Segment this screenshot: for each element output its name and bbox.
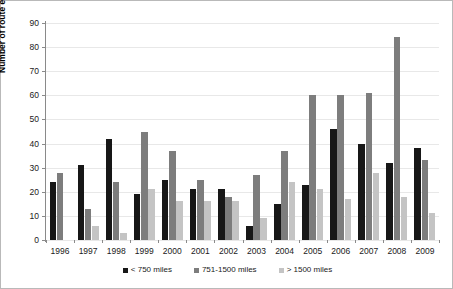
legend-item[interactable]: > 1500 miles xyxy=(279,266,333,274)
x-axis-tick-mark xyxy=(355,240,356,243)
x-axis-tick-mark xyxy=(411,240,412,243)
bar xyxy=(162,180,169,240)
bar xyxy=(358,144,365,240)
bar xyxy=(50,182,57,240)
bar xyxy=(190,189,197,240)
bar xyxy=(274,204,281,240)
y-axis-tick-label: 0 xyxy=(1,236,39,245)
x-axis-tick-label: 2006 xyxy=(327,247,355,256)
legend-label: > 1500 miles xyxy=(287,266,333,274)
bar xyxy=(345,199,352,240)
x-axis-tick-mark xyxy=(383,240,384,243)
bar xyxy=(197,180,204,240)
bar xyxy=(176,201,183,240)
y-axis-tick-label: 20 xyxy=(1,188,39,197)
bar xyxy=(148,189,155,240)
bar xyxy=(141,132,148,241)
bar xyxy=(309,95,316,240)
bar xyxy=(120,233,127,240)
x-axis-tick-mark xyxy=(102,240,103,243)
bar xyxy=(373,173,380,241)
y-axis-tick-mark xyxy=(42,144,45,145)
x-axis-tick-mark xyxy=(439,240,440,243)
y-axis-title: Number of route entries xyxy=(0,0,7,73)
x-axis-tick-mark xyxy=(186,240,187,243)
y-axis-tick-mark xyxy=(42,240,45,241)
y-axis-tick-mark xyxy=(42,168,45,169)
y-axis-tick-label: 70 xyxy=(1,67,39,76)
bar xyxy=(57,173,64,241)
legend-label: 751-1500 miles xyxy=(202,266,257,274)
bar xyxy=(260,218,267,240)
x-axis-tick-label: 2005 xyxy=(299,247,327,256)
y-axis-tick-label: 90 xyxy=(1,19,39,28)
bar xyxy=(394,37,401,240)
bar xyxy=(429,213,436,240)
y-axis-tick-mark xyxy=(42,71,45,72)
bar xyxy=(225,197,232,240)
y-axis-tick-label: 40 xyxy=(1,140,39,149)
x-axis-tick-label: 2000 xyxy=(158,247,186,256)
x-axis-tick-mark xyxy=(214,240,215,243)
bar xyxy=(401,197,408,240)
bar xyxy=(330,129,337,240)
bar xyxy=(281,151,288,240)
x-axis-tick-label: 2004 xyxy=(271,247,299,256)
chart-legend: < 750 miles751-1500 miles> 1500 miles xyxy=(1,266,453,274)
bar xyxy=(232,201,239,240)
legend-item[interactable]: < 750 miles xyxy=(123,266,172,274)
y-axis-tick-mark xyxy=(42,95,45,96)
x-axis-tick-mark xyxy=(158,240,159,243)
legend-label: < 750 miles xyxy=(131,266,172,274)
x-axis-tick-label: 2009 xyxy=(411,247,439,256)
x-axis-tick-label: 1997 xyxy=(74,247,102,256)
y-axis-tick-label: 60 xyxy=(1,91,39,100)
y-axis-tick-label: 30 xyxy=(1,164,39,173)
x-axis-tick-mark xyxy=(46,240,47,243)
y-axis-tick-mark xyxy=(42,23,45,24)
x-axis-tick-mark xyxy=(243,240,244,243)
bar xyxy=(169,151,176,240)
bar xyxy=(92,226,99,240)
bar xyxy=(386,163,393,240)
x-axis-tick-label: 2001 xyxy=(186,247,214,256)
x-axis-tick-mark xyxy=(271,240,272,243)
bar xyxy=(134,194,141,240)
x-axis-tick-label: 2003 xyxy=(243,247,271,256)
x-axis-tick-label: 1998 xyxy=(102,247,130,256)
y-axis-tick-label: 50 xyxy=(1,115,39,124)
x-axis-tick-mark xyxy=(299,240,300,243)
x-axis-tick-label: 1996 xyxy=(46,247,74,256)
y-axis-tick-mark xyxy=(42,216,45,217)
y-axis-tick-label: 10 xyxy=(1,212,39,221)
bar xyxy=(289,182,296,240)
bar xyxy=(218,189,225,240)
bar xyxy=(106,139,113,240)
bar xyxy=(246,226,253,240)
x-axis-tick-label: 2007 xyxy=(355,247,383,256)
bar xyxy=(85,209,92,240)
bar xyxy=(204,201,211,240)
bar xyxy=(337,95,344,240)
bar xyxy=(366,93,373,240)
bar xyxy=(302,185,309,240)
x-axis-tick-label: 1999 xyxy=(130,247,158,256)
x-axis-tick-mark xyxy=(74,240,75,243)
legend-swatch-icon xyxy=(123,268,128,273)
x-axis-tick-label: 2008 xyxy=(383,247,411,256)
bar xyxy=(422,160,429,240)
bar xyxy=(113,182,120,240)
y-axis-tick-label: 80 xyxy=(1,43,39,52)
bars-layer xyxy=(46,23,439,240)
x-axis-tick-label: 2002 xyxy=(214,247,242,256)
bar xyxy=(78,165,85,240)
y-axis-tick-mark xyxy=(42,119,45,120)
x-axis-tick-mark xyxy=(327,240,328,243)
legend-item[interactable]: 751-1500 miles xyxy=(194,266,257,274)
legend-swatch-icon xyxy=(194,268,199,273)
x-axis-tick-mark xyxy=(130,240,131,243)
legend-swatch-icon xyxy=(279,268,284,273)
bar xyxy=(253,175,260,240)
bar xyxy=(317,189,324,240)
bar xyxy=(414,148,421,240)
